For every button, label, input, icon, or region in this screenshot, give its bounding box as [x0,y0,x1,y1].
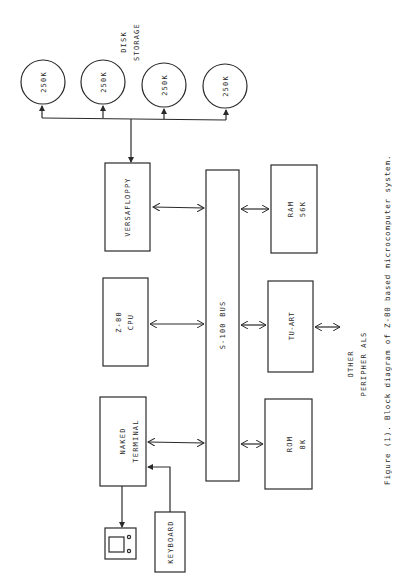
disk-label-4: 250K [222,75,230,97]
terminal-label-1: NAKED [119,427,127,454]
bus-label: S-100 BUS [219,301,227,350]
disk-label-2: 250K [100,71,108,93]
disk-label-3: 250K [161,74,169,96]
cpu-label-2: CPU [127,314,135,330]
disk-storage-title-1: DISK [120,31,128,53]
peripherals-label-2: PERIPHER ALS [360,332,368,397]
disk-label-1: 250K [40,71,48,93]
figure-caption: Figure (1). Block diagram of Z-80 based … [383,155,392,485]
cpu-label-1: Z-80 [115,311,123,333]
keyboard-label: KEYBOARD [167,520,175,563]
rom-label-2: 8K [299,439,307,450]
versafloppy-label: VERSAFLOPPY [124,177,132,237]
disk-bus-line [42,118,226,120]
ram-label-2: 56K [299,201,307,217]
ram-label-1: RAM [287,201,295,217]
tuart-label: TU-ART [288,312,296,341]
cpu-block [103,278,148,366]
block-diagram: 250K 250K 250K 250K DISK STORAGE VERSAFL… [0,0,410,584]
disk-storage-title-2: STORAGE [133,23,141,61]
terminal-label-2: TERMINAL [132,419,140,462]
monitor-icon [105,528,136,559]
rom-label-1: ROM [286,436,294,452]
peripherals-label-1: OTHER [347,350,355,377]
keyboard-to-terminal-link [148,467,170,512]
